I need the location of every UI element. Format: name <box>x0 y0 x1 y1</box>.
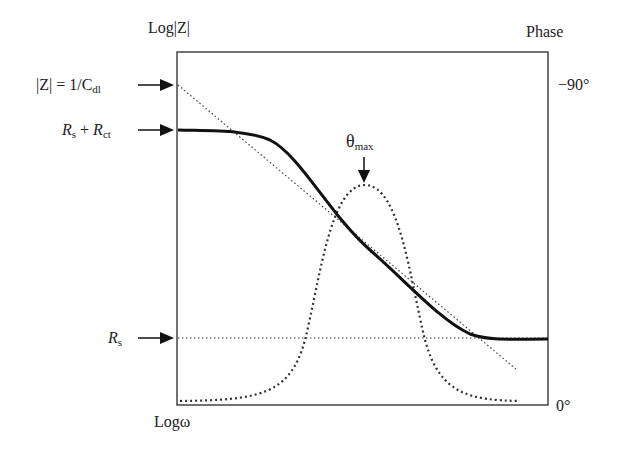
impedance-curve <box>178 130 548 339</box>
y-axis-right-label: Phase <box>526 24 563 40</box>
plot-frame <box>177 52 548 405</box>
rs-rct-annotation: Rs + Rct <box>62 122 111 140</box>
arrow-cdl-icon <box>160 79 174 91</box>
theta-max-annotation: θmax <box>346 132 374 152</box>
y-axis-left-label: Log|Z| <box>148 20 190 36</box>
arrow-rs-icon <box>160 332 174 344</box>
bode-plot <box>0 0 624 452</box>
arrow-theta-icon <box>358 170 370 183</box>
right-tick-bottom: 0° <box>556 398 570 414</box>
cdl-annotation: |Z| = 1/Cdl <box>36 77 101 95</box>
x-axis-label: Logω <box>154 414 190 430</box>
arrow-rs-rct-icon <box>160 124 174 136</box>
rs-annotation: Rs <box>108 330 122 348</box>
phase-curve <box>180 185 520 401</box>
right-tick-top: −90° <box>558 77 589 93</box>
